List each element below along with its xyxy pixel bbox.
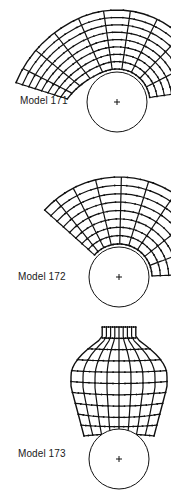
model-171-group <box>15 9 171 132</box>
mesh-diagram-canvas <box>0 0 171 494</box>
model-173-group <box>70 326 168 489</box>
model-172-group <box>44 176 171 307</box>
roller-circle <box>87 72 147 132</box>
roller-circle <box>89 247 149 307</box>
roller-circle <box>89 429 149 489</box>
model-171-label: Model 171 <box>20 95 68 106</box>
deformation-mesh <box>70 326 168 437</box>
model-172-label: Model 172 <box>18 271 66 282</box>
model-173-label: Model 173 <box>18 448 66 459</box>
